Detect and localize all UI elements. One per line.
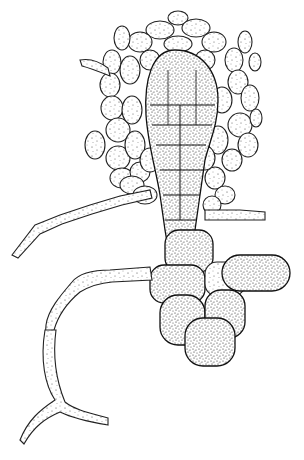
illustration <box>0 0 304 460</box>
stippled-cell-drawing <box>0 0 304 460</box>
right-filament <box>205 210 265 220</box>
lower-left-filament <box>45 267 152 345</box>
left-mid-filament <box>12 190 152 258</box>
lower-filament-trunk <box>20 330 108 444</box>
lower-stalk <box>150 230 290 366</box>
